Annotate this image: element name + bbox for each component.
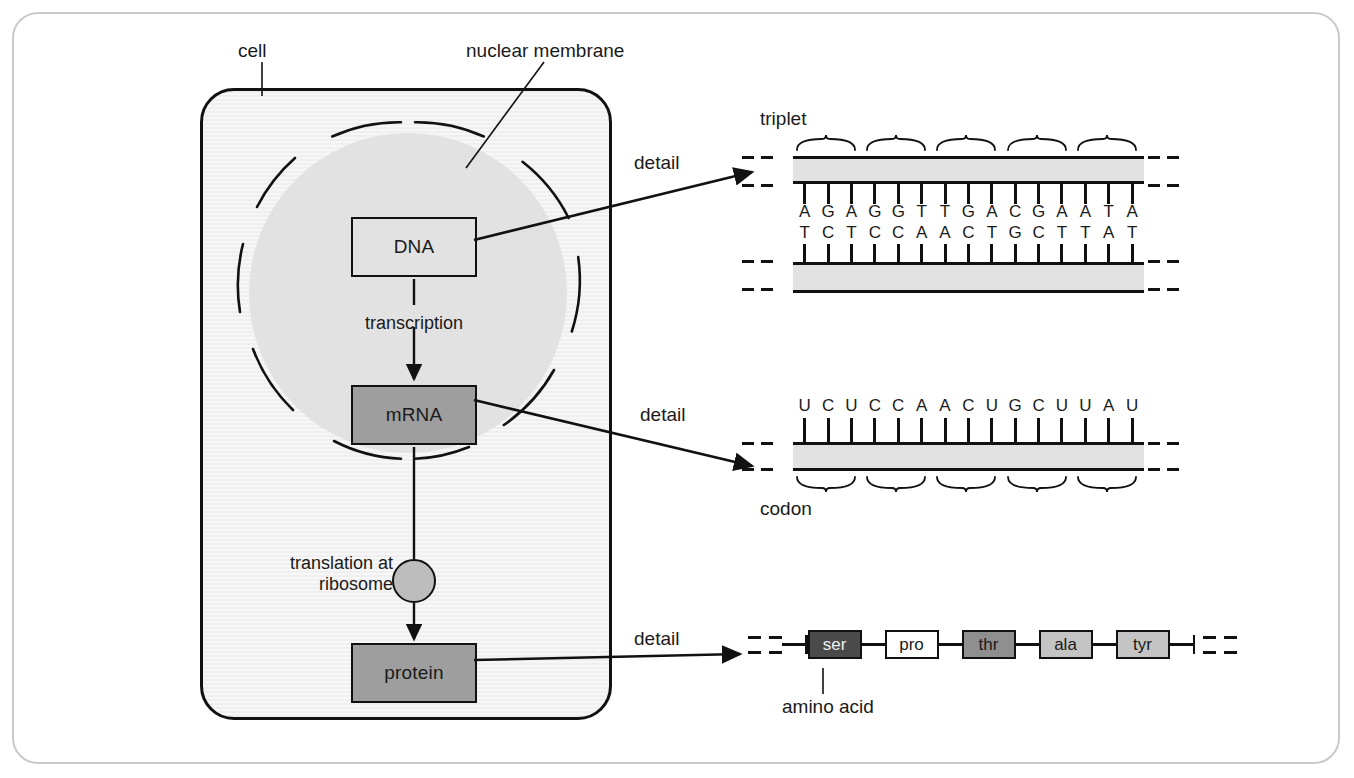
- dna-dash-left-lower: [742, 260, 773, 263]
- dna-base-top: G: [887, 202, 910, 222]
- mrna-bond-tick: [840, 418, 863, 442]
- mrna-bond-ticks: [793, 418, 1144, 442]
- mrna-base: A: [933, 396, 956, 416]
- mrna-base: U: [840, 396, 863, 416]
- chain-bond: [1016, 643, 1039, 646]
- dna-bond-tick-bottom: [933, 244, 956, 264]
- mrna-base: G: [1004, 396, 1027, 416]
- dna-base-top: T: [910, 202, 933, 222]
- dna-base-top: A: [840, 202, 863, 222]
- triplet-brace: [863, 134, 933, 151]
- dna-dash-right-top: [1148, 156, 1179, 159]
- mrna-base: A: [910, 396, 933, 416]
- dna-bond-tick-top: [933, 184, 956, 204]
- translation-line-1: translation at: [233, 553, 393, 574]
- dna-base-top: G: [1027, 202, 1050, 222]
- translation-line-2: ribosome: [233, 574, 393, 595]
- dna-base-bottom: C: [957, 223, 980, 243]
- chain-bond: [1170, 643, 1193, 646]
- mrna-dash-right-bottom: [1148, 468, 1179, 471]
- dna-base-top: G: [816, 202, 839, 222]
- step-transcription-label: transcription: [299, 313, 529, 334]
- dna-base-bottom: T: [1050, 223, 1073, 243]
- mrna-base: A: [1097, 396, 1120, 416]
- node-mrna: mRNA: [351, 385, 477, 445]
- detail-label-mrna: detail: [640, 404, 685, 426]
- amino-acid-box: thr: [962, 630, 1016, 659]
- mrna-bond-tick: [887, 418, 910, 442]
- dna-bond-tick-top: [887, 184, 910, 204]
- dna-bond-tick-top: [980, 184, 1003, 204]
- dna-base-bottom: A: [933, 223, 956, 243]
- dna-bond-tick-top: [1027, 184, 1050, 204]
- codon-brace: [1004, 476, 1074, 493]
- caption-codon: codon: [760, 498, 812, 520]
- dna-bond-ticks-bottom: [793, 244, 1144, 264]
- dna-base-row-bottom: TCTCCAACTGCTTAT: [793, 223, 1144, 243]
- mrna-base: U: [1074, 396, 1097, 416]
- chain-bond: [939, 643, 962, 646]
- mrna-bond-tick: [863, 418, 886, 442]
- dna-base-bottom: G: [1004, 223, 1027, 243]
- protein-detail-panel: serprothralatyr amino acid: [748, 630, 1168, 678]
- dna-base-bottom: T: [980, 223, 1003, 243]
- amino-acid-box: ser: [808, 630, 862, 659]
- dna-bond-tick-top: [816, 184, 839, 204]
- amino-acid-label: tyr: [1133, 635, 1152, 655]
- mrna-base: U: [793, 396, 816, 416]
- dna-bond-tick-bottom: [863, 244, 886, 264]
- mrna-dash-left-bottom: [742, 468, 773, 471]
- dna-bond-tick-bottom: [957, 244, 980, 264]
- node-protein: protein: [351, 643, 477, 703]
- protein-dash-right: [1203, 636, 1237, 654]
- dna-base-bottom: A: [1097, 223, 1120, 243]
- dna-dash-right-lower: [1148, 260, 1179, 263]
- dna-base-bottom: T: [1120, 223, 1143, 243]
- ribosome-circle: [392, 559, 436, 603]
- dna-bond-tick-top: [1074, 184, 1097, 204]
- node-mrna-label: mRNA: [386, 404, 443, 426]
- mrna-bond-tick: [1097, 418, 1120, 442]
- mrna-bond-tick: [1074, 418, 1097, 442]
- dna-backbone-bottom: [793, 265, 1144, 293]
- dna-dash-left-bottom: [742, 288, 773, 291]
- caption-amino-acid: amino acid: [782, 696, 874, 718]
- amino-acid-label: ser: [823, 635, 847, 655]
- dna-base-top: G: [957, 202, 980, 222]
- dna-base-top: T: [933, 202, 956, 222]
- dna-bond-tick-top: [863, 184, 886, 204]
- mrna-base: C: [887, 396, 910, 416]
- dna-base-top: A: [1050, 202, 1073, 222]
- dna-bond-tick-bottom: [887, 244, 910, 264]
- mrna-detail-panel: UCUCCAACUGCUUAU codon: [760, 396, 1180, 528]
- mrna-base-row: UCUCCAACUGCUUAU: [793, 396, 1144, 416]
- dna-base-top: G: [863, 202, 886, 222]
- dna-base-top: A: [1074, 202, 1097, 222]
- dna-bond-tick-bottom: [840, 244, 863, 264]
- mrna-base: U: [980, 396, 1003, 416]
- amino-acid-chain: serprothralatyr: [748, 630, 1237, 659]
- chain-bond: [1093, 643, 1116, 646]
- dna-bond-ticks-top: [793, 184, 1144, 204]
- dna-dash-left-upper: [742, 184, 773, 187]
- dna-base-bottom: T: [840, 223, 863, 243]
- mrna-base: U: [1050, 396, 1073, 416]
- triplet-brace: [1004, 134, 1074, 151]
- mrna-base: C: [957, 396, 980, 416]
- dna-bond-tick-bottom: [1050, 244, 1073, 264]
- caption-triplet: triplet: [760, 108, 806, 130]
- dna-base-bottom: T: [793, 223, 816, 243]
- dna-base-bottom: C: [816, 223, 839, 243]
- dna-bond-tick-top: [1050, 184, 1073, 204]
- codon-brace: [863, 476, 933, 493]
- dna-bond-tick-top: [793, 184, 816, 204]
- chain-bond: [782, 643, 805, 646]
- mrna-bond-tick: [980, 418, 1003, 442]
- amino-acid-label: ala: [1054, 635, 1077, 655]
- mrna-dash-left-top: [742, 442, 773, 445]
- dna-base-top: A: [980, 202, 1003, 222]
- amino-acid-label: pro: [899, 635, 924, 655]
- codon-brace: [933, 476, 1003, 493]
- dna-bond-tick-bottom: [1097, 244, 1120, 264]
- amino-acid-label: thr: [979, 635, 999, 655]
